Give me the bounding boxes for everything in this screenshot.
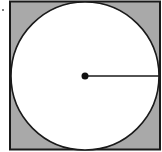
- inscribed-circle-diagram: [0, 0, 162, 152]
- center-point: [82, 73, 89, 80]
- stray-mark: [2, 9, 4, 11]
